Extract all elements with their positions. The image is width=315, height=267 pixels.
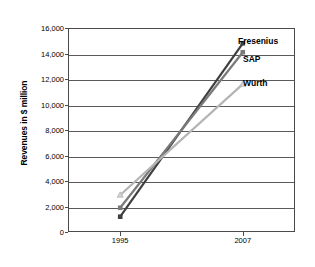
series-line	[120, 84, 243, 195]
x-tick-label: 1995	[112, 236, 129, 245]
y-tick-label: 16,000	[24, 24, 64, 33]
x-axis-tick-labels: 19952007	[68, 236, 295, 252]
x-tick-label: 2007	[234, 236, 251, 245]
y-axis-tick-labels: 02,0004,0006,0008,00010,00012,00014,0001…	[22, 0, 64, 267]
series-layer	[68, 28, 295, 232]
y-tick-label: 2,000	[24, 202, 64, 211]
y-tick-label: 12,000	[24, 75, 64, 84]
y-tick-label: 4,000	[24, 177, 64, 186]
series-marker-square	[118, 205, 123, 210]
y-tick-label: 0	[24, 228, 64, 237]
y-tick-label: 10,000	[24, 100, 64, 109]
series-label: Fresenius	[238, 36, 278, 46]
series-marker-square	[118, 214, 123, 219]
y-tick-label: 14,000	[24, 49, 64, 58]
series-label: SAP	[243, 54, 260, 64]
series-line	[120, 52, 243, 208]
line-chart: Revenues in $ million 02,0004,0006,0008,…	[0, 0, 315, 267]
series-label: Würth	[243, 78, 268, 88]
y-tick-label: 6,000	[24, 151, 64, 160]
y-tick-label: 8,000	[24, 126, 64, 135]
